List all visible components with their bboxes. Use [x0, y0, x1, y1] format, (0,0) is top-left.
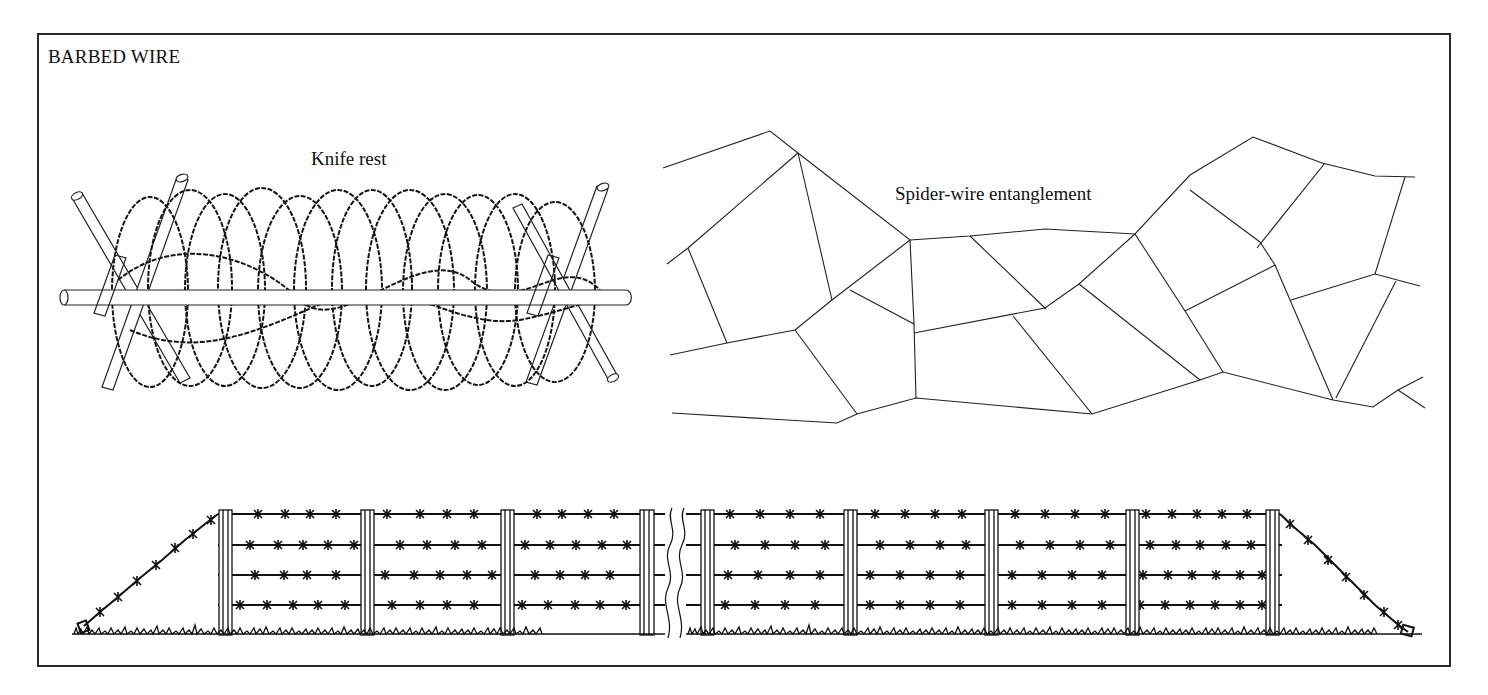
- fence-post: [1266, 510, 1279, 635]
- illustration-canvas: [0, 0, 1488, 695]
- knife-rest-right-legs: [513, 182, 620, 385]
- fence-posts: [219, 510, 1279, 635]
- knife-rest-pole: [60, 290, 631, 305]
- fence-wires-right: [686, 514, 1282, 605]
- barbs: [96, 509, 1402, 630]
- knife-rest-drawing: [60, 173, 631, 390]
- fence-post: [844, 510, 857, 635]
- fence-post: [701, 510, 714, 635]
- spider-wire-drawing: [663, 131, 1425, 423]
- fence-wires-left: [218, 514, 665, 605]
- fence-drawing: [72, 508, 1422, 638]
- fence-post: [1126, 510, 1139, 635]
- knife-rest-left-legs: [70, 173, 190, 390]
- fence-post: [985, 510, 998, 635]
- fence-post: [361, 510, 374, 635]
- fence-break-symbol: [665, 508, 684, 638]
- ground-grass: [72, 625, 1422, 634]
- fence-post: [501, 510, 514, 635]
- fence-post: [640, 510, 654, 635]
- fence-post: [219, 510, 232, 635]
